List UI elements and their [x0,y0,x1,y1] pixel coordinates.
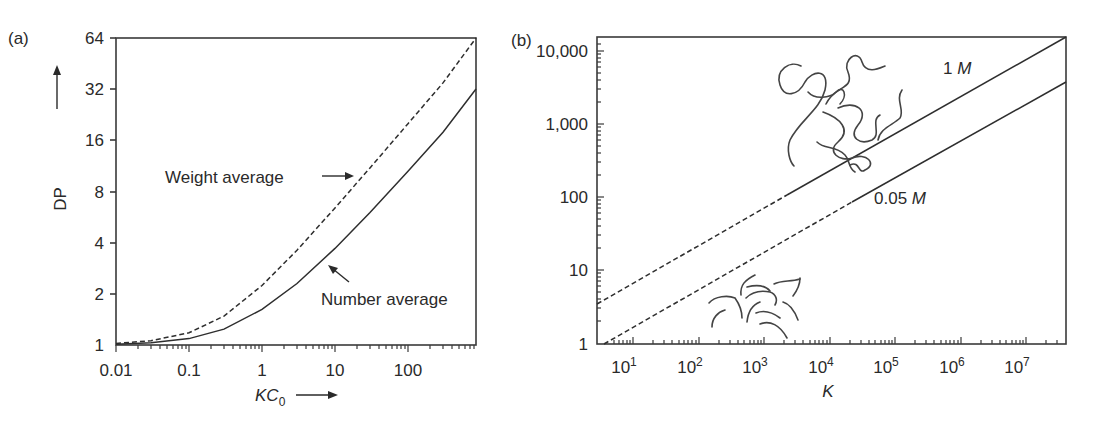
panel-b-y-axis [597,44,604,321]
panel-b-plot-frame [597,37,1066,344]
label-1m: 1 M [943,59,972,78]
y-tick-label: 10 [569,261,588,280]
arrow-up-icon [53,65,61,109]
figure: (a) 64 32 16 8 4 2 1 DP [0,0,1115,430]
arrow-right-icon [322,172,354,180]
weight-average-annotation: Weight average [165,168,284,187]
y-tick-label: 100 [560,188,588,207]
y-tick-label: 2 [95,285,104,304]
line-1m [597,37,1066,304]
panel-b-x-tick-labels: 101 102 103 104 105 106 107 [611,355,1030,377]
line-0-05m [604,82,1066,344]
short-chains-illustration [709,275,800,338]
x-tick-label: 1 [257,361,266,380]
x-tick-label: 100 [394,361,422,380]
number-average-annotation: Number average [321,290,448,309]
panel-a-y-axis: 64 32 16 8 4 2 1 DP [51,29,116,355]
y-axis-label: DP [51,187,70,211]
panel-a: (a) 64 32 16 8 4 2 1 DP [8,29,476,409]
y-tick-label: 1 [579,335,588,354]
x-tick-label: 103 [742,355,768,377]
panel-a-x-axis [116,345,474,352]
x-tick-label: 104 [808,355,834,377]
entangled-chains-illustration [779,56,902,172]
y-tick-label: 1 [95,336,104,355]
y-tick-label: 32 [85,80,104,99]
x-tick-label: 106 [939,355,965,377]
arrow-up-left-icon [328,265,349,282]
y-tick-label: 16 [85,131,104,150]
x-tick-label: 0.1 [177,361,201,380]
x-tick-label: 101 [611,355,637,377]
panel-a-label: (a) [8,29,29,48]
panel-b: (b) 10,000 1,000 100 10 1 [511,31,1066,401]
y-tick-label: 4 [95,234,104,253]
x-axis-label: KC0 [255,386,286,409]
x-tick-label: 0.01 [99,361,132,380]
x-axis-label: K [822,382,834,401]
panel-b-x-axis [614,337,1057,344]
y-tick-label: 1,000 [545,115,588,134]
y-tick-label: 8 [95,183,104,202]
arrow-right-icon [296,391,338,399]
y-tick-label: 10,000 [536,42,588,61]
x-tick-label: 102 [677,355,703,377]
panel-b-label: (b) [511,31,532,50]
label-0-05m: 0.05 M [874,189,927,208]
y-tick-label: 64 [85,29,104,48]
x-tick-label: 105 [873,355,899,377]
x-tick-label: 107 [1004,355,1030,377]
x-tick-label: 10 [326,361,345,380]
